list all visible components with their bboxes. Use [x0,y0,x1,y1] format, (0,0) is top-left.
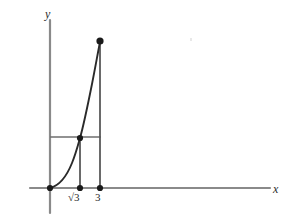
x-axis-label: x [273,183,278,195]
figure-canvas: y x √3 3 [0,0,287,222]
tick-label-sqrt3: √3 [68,192,80,203]
point-top-3 [96,37,103,44]
graph-plot [0,0,287,222]
point-on-curve-sqrt3 [77,135,83,141]
y-axis-label: y [45,8,50,20]
curve-path [50,42,100,188]
point-origin [47,185,53,191]
tick-label-three: 3 [95,192,101,203]
scan-speck [190,38,192,41]
